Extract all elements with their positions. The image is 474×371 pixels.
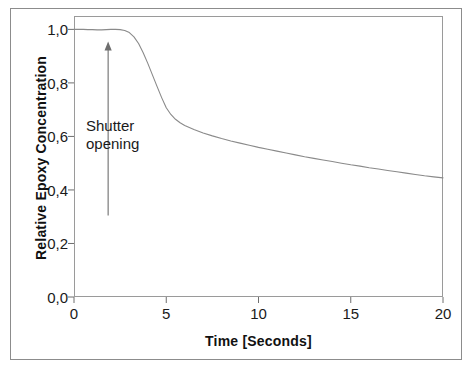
x-tick-label: 15 xyxy=(326,306,376,321)
x-tick-label: 20 xyxy=(418,306,468,321)
y-axis-title: Relative Epoxy Concentration xyxy=(33,13,49,303)
x-tick-label: 5 xyxy=(141,306,191,321)
x-tick-label: 0 xyxy=(49,306,99,321)
x-tick-label: 10 xyxy=(234,306,284,321)
x-axis-tick-labels: 05101520 xyxy=(0,0,474,371)
x-axis-title: Time [Seconds] xyxy=(74,333,443,349)
figure-container: 0,00,20,40,60,81,0 05101520 Shutter open… xyxy=(0,0,474,371)
shutter-opening-annotation: Shutter opening xyxy=(86,117,139,152)
